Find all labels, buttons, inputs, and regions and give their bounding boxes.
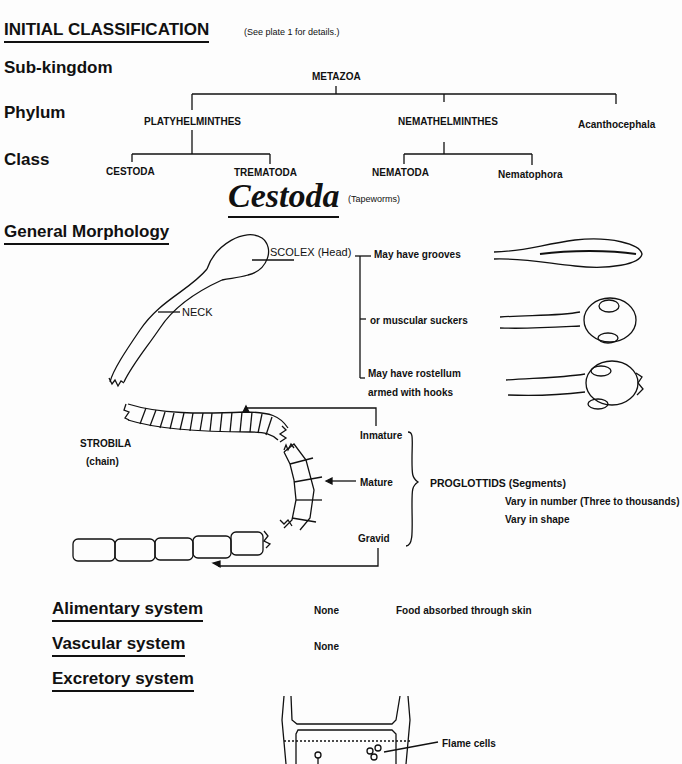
proglottids-brace xyxy=(406,432,418,546)
scolex-features-bracket xyxy=(355,256,371,378)
scolex-neck-drawing xyxy=(109,235,294,386)
stage-pointer-lines xyxy=(213,406,378,567)
strobila-immature-segments xyxy=(124,404,288,442)
scolex-rostellum-sketch xyxy=(506,361,643,409)
strobila-gravid-segments xyxy=(73,531,270,561)
strobila-mature-segments xyxy=(280,444,322,530)
scolex-suckers-sketch xyxy=(500,298,636,343)
excretory-diagram xyxy=(282,696,438,764)
classification-tree-lines xyxy=(132,86,616,165)
diagram-lines xyxy=(0,0,682,764)
scolex-grooves-sketch xyxy=(494,239,642,267)
